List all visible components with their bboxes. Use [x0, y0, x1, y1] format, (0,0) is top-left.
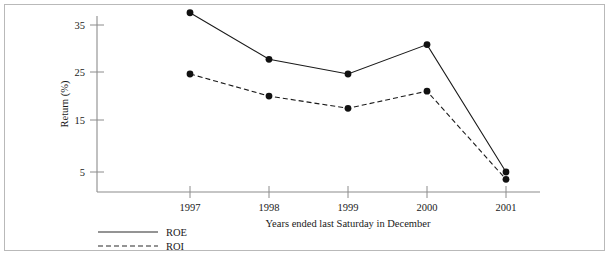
x-tick-label-2001: 2001 [496, 202, 517, 213]
data-point-roi-1998[interactable] [266, 93, 273, 100]
y-tick-label-15: 15 [75, 115, 86, 126]
x-tick-label-2000: 2000 [417, 202, 438, 213]
x-tick-label-1997: 1997 [180, 202, 201, 213]
data-point-roi-2000[interactable] [424, 88, 431, 95]
x-tick-label-1998: 1998 [259, 202, 280, 213]
x-axis-title: Years ended last Saturday in December [266, 218, 431, 229]
legend-label-roe: ROE [166, 227, 187, 238]
series-line-roi [190, 74, 506, 179]
data-point-roi-1997[interactable] [187, 71, 194, 78]
x-tick-label-1999: 1999 [338, 202, 359, 213]
chart-canvas: 35 25 15 5 Return (%) 1997 1998 1999 200… [0, 0, 612, 258]
y-tick-label-25: 25 [75, 67, 86, 78]
data-point-roe-1998[interactable] [266, 56, 273, 63]
legend-label-roi: ROI [166, 241, 185, 252]
data-point-roi-2001[interactable] [503, 176, 510, 183]
data-point-roe-2001[interactable] [503, 169, 510, 176]
y-tick-label-5: 5 [80, 167, 85, 178]
line-chart-svg: 35 25 15 5 Return (%) 1997 1998 1999 200… [0, 0, 612, 258]
data-point-roe-1999[interactable] [345, 71, 352, 78]
series-layer [187, 9, 510, 182]
data-point-roe-2000[interactable] [424, 41, 431, 48]
y-tick-label-35: 35 [75, 20, 86, 31]
y-axis-title: Return (%) [59, 80, 71, 127]
data-point-roe-1997[interactable] [187, 9, 194, 16]
chart-legend: ROE ROI [98, 227, 187, 252]
series-line-roe [190, 13, 506, 172]
data-point-roi-1999[interactable] [345, 105, 352, 112]
